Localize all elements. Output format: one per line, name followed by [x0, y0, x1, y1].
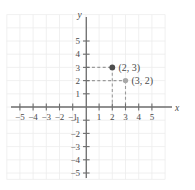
y-tick-label: 3 — [76, 63, 81, 73]
data-point-2-3[interactable] — [109, 65, 115, 71]
x-tick-label: −5 — [15, 112, 25, 122]
y-tick-label: 1 — [76, 89, 81, 99]
y-tick-label: −5 — [70, 168, 80, 178]
coordinate-plane-svg: −5 −4 −3 −2 −1 1 2 3 4 5 5 4 3 2 1 −1 −2… — [0, 0, 195, 190]
x-tick-label: 5 — [150, 112, 155, 122]
y-axis-label: y — [76, 10, 82, 20]
x-axis-label: x — [174, 103, 180, 113]
data-point-3-2[interactable] — [123, 78, 128, 83]
data-point-label-3-2: (3, 2) — [132, 75, 154, 87]
y-tick-label: −3 — [70, 142, 80, 152]
x-tick-label: 3 — [123, 112, 128, 122]
x-tick-label: 1 — [97, 112, 102, 122]
x-tick-label: 4 — [136, 112, 141, 122]
y-tick-label: 4 — [76, 49, 81, 59]
y-tick-label: 2 — [76, 76, 81, 86]
point-guide-lines — [87, 67, 126, 106]
y-tick-label: −2 — [70, 129, 80, 139]
y-tick-label: −4 — [70, 155, 80, 165]
y-tick-label: 5 — [76, 36, 81, 46]
x-tick-label: −2 — [55, 112, 65, 122]
x-tick-label: −4 — [28, 112, 38, 122]
data-point-label-2-3: (2, 3) — [119, 62, 141, 74]
y-tick-label: −1 — [70, 115, 80, 125]
x-tick-label: −3 — [42, 112, 52, 122]
coordinate-plane-figure: −5 −4 −3 −2 −1 1 2 3 4 5 5 4 3 2 1 −1 −2… — [0, 0, 195, 190]
x-tick-label: 2 — [110, 112, 115, 122]
